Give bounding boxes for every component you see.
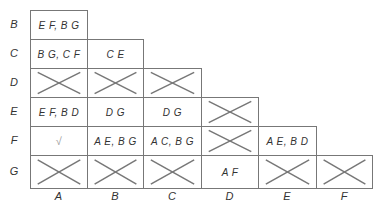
cell-g-f (316, 155, 373, 189)
cell-text: E F, B G (38, 20, 79, 31)
cross-icon (88, 69, 143, 97)
cell-d-c (143, 68, 202, 98)
cell-g-d: A F (201, 155, 259, 189)
cell-g-e (258, 155, 317, 189)
cell-text: C E (106, 49, 124, 60)
cell-text: A F (222, 167, 239, 178)
cell-g-a (30, 155, 88, 189)
cross-icon (202, 98, 258, 126)
cell-f-c: A C, B G (143, 126, 202, 156)
cell-g-c (143, 155, 202, 189)
cell-g-b (87, 155, 144, 189)
cell-c-b: C E (87, 39, 144, 69)
cross-icon (31, 156, 87, 188)
cell-e-a: E F, B D (30, 97, 88, 127)
row-label-c: C (4, 47, 24, 59)
row-label-e: E (4, 105, 24, 117)
cell-f-b: A E, B G (87, 126, 144, 156)
cell-text: D G (163, 107, 182, 118)
cross-icon (144, 156, 201, 188)
col-label-d: D (220, 190, 240, 202)
col-label-e: E (277, 190, 297, 202)
col-label-b: B (105, 190, 125, 202)
cross-icon (31, 69, 87, 97)
cell-d-b (87, 68, 144, 98)
cell-f-e: A E, B D (258, 126, 317, 156)
cell-text: A C, B G (151, 136, 194, 147)
cell-text: A E, B D (267, 136, 309, 147)
col-label-f: F (334, 190, 354, 202)
cell-e-d (201, 97, 259, 127)
col-label-a: A (49, 190, 69, 202)
cell-b-a: E F, B G (30, 10, 88, 40)
cross-icon (317, 156, 372, 188)
row-label-f: F (4, 134, 24, 146)
cross-icon (88, 156, 143, 188)
cell-text: D G (106, 107, 125, 118)
cell-e-c: D G (143, 97, 202, 127)
cell-text: B G, C F (38, 49, 81, 60)
cell-text: A E, B G (94, 136, 137, 147)
col-label-c: C (162, 190, 182, 202)
cell-text: E F, B D (39, 107, 80, 118)
cross-icon (259, 156, 316, 188)
row-label-g: G (4, 165, 24, 177)
row-label-b: B (4, 18, 24, 30)
row-label-d: D (4, 76, 24, 88)
cell-d-a (30, 68, 88, 98)
cell-f-d (201, 126, 259, 156)
cross-icon (202, 127, 258, 155)
cell-f-a: √ (30, 126, 88, 156)
cell-e-b: D G (87, 97, 144, 127)
cell-c-a: B G, C F (30, 39, 88, 69)
cross-icon (144, 69, 201, 97)
check-icon: √ (56, 135, 63, 147)
